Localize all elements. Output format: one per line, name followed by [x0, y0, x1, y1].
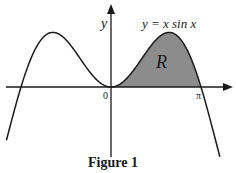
pi-tick-label: π	[196, 91, 201, 101]
y-axis-arrow-icon	[107, 4, 115, 14]
region-label: R	[156, 53, 167, 71]
y-axis-label: y	[101, 17, 107, 31]
figure-plot	[0, 0, 236, 173]
equation-label: y = x sin x	[142, 17, 196, 30]
figure-caption: Figure 1	[88, 156, 138, 170]
origin-label: 0	[103, 91, 108, 101]
curve-x-sin-x	[6, 32, 219, 156]
x-axis-arrow-icon	[223, 83, 233, 91]
